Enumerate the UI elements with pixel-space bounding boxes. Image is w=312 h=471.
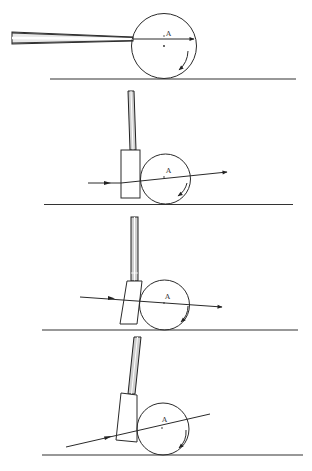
panel-4: A: [42, 337, 303, 455]
stick: [128, 337, 141, 394]
diagram-canvas: A A A: [0, 0, 312, 471]
force-line: [66, 414, 210, 447]
point-a: [163, 176, 165, 178]
stick: [128, 91, 136, 150]
label-a: A: [165, 30, 172, 38]
striker-block: [121, 150, 140, 198]
rotation-arrow-icon: [179, 430, 186, 448]
point-a: [161, 427, 163, 429]
striker-block: [120, 281, 142, 324]
stick: [131, 217, 138, 281]
ball: [140, 280, 190, 330]
ball: [141, 154, 191, 204]
rotation-arrow-icon: [179, 51, 188, 70]
panel-3: A: [42, 217, 298, 330]
arrowhead-icon: [104, 436, 112, 440]
label-a: A: [161, 416, 168, 424]
point-a: [163, 302, 165, 304]
panel-2: A: [44, 91, 293, 205]
ball-center: [163, 45, 165, 47]
point-a: [163, 35, 164, 36]
label-a: A: [165, 167, 172, 175]
arrowhead-icon: [104, 181, 111, 185]
cue-stick: [12, 32, 133, 44]
label-a: A: [164, 293, 171, 301]
panel-1: A: [12, 14, 296, 80]
force-line: [80, 297, 222, 307]
